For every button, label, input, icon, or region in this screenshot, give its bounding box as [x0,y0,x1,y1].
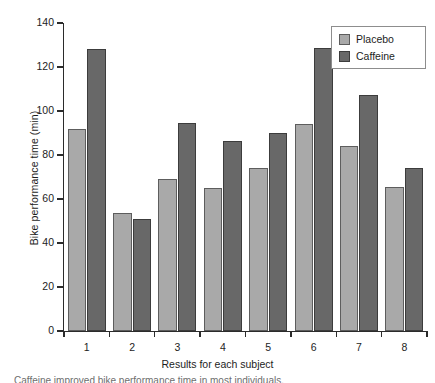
legend-swatch-caffeine [339,51,350,62]
bar-placebo-subject-7 [340,146,359,331]
bar-placebo-subject-3 [158,179,177,331]
legend-swatch-placebo [339,34,350,45]
x-tick-mark [426,331,427,337]
legend-label-caffeine: Caffeine [356,51,395,62]
x-tick-label-2: 2 [117,341,147,353]
y-axis-title: Bike performance time (min) [28,48,40,308]
bar-caffeine-subject-5 [269,133,288,331]
x-tick-mark [336,331,337,337]
y-tick-mark [57,66,63,67]
x-tick-mark [109,331,110,337]
y-tick-mark [57,286,63,287]
plot-area [64,23,427,331]
bar-placebo-subject-5 [249,168,268,331]
bar-chart-figure: Bike performance time (min) 020406080100… [0,0,435,383]
y-tick-label: 140 [14,17,54,27]
x-tick-label-3: 3 [162,341,192,353]
y-tick-mark [57,330,63,331]
x-axis-title: Results for each subject [0,358,435,370]
bar-placebo-subject-1 [68,129,87,331]
bar-placebo-subject-6 [295,124,314,331]
bar-caffeine-subject-3 [178,123,197,331]
y-tick-mark [57,154,63,155]
y-tick-label: 100 [14,105,54,115]
bar-placebo-subject-8 [385,187,404,331]
bar-caffeine-subject-2 [133,219,152,331]
x-tick-label-7: 7 [344,341,374,353]
legend-item-caffeine: Caffeine [339,49,419,63]
x-tick-label-4: 4 [208,341,238,353]
bar-caffeine-subject-6 [314,48,333,331]
chart-legend: Placebo Caffeine [331,26,426,69]
x-tick-mark [154,331,155,337]
x-tick-label-8: 8 [389,341,419,353]
bar-placebo-subject-2 [113,213,132,331]
y-tick-mark [57,22,63,23]
y-tick-mark [57,242,63,243]
x-tick-label-5: 5 [253,341,283,353]
figure-caption: Caffeine improved bike performance time … [14,375,434,383]
x-tick-mark [245,331,246,337]
x-tick-mark [199,331,200,337]
legend-label-placebo: Placebo [356,34,394,45]
y-tick-label: 20 [14,281,54,291]
legend-item-placebo: Placebo [339,32,419,46]
y-tick-label: 0 [14,325,54,335]
x-tick-mark [63,331,64,337]
bar-caffeine-subject-4 [223,141,242,331]
x-tick-label-6: 6 [299,341,329,353]
bar-caffeine-subject-8 [405,168,424,331]
y-tick-mark [57,110,63,111]
x-tick-mark [381,331,382,337]
bar-caffeine-subject-7 [359,95,378,332]
x-tick-mark [290,331,291,337]
bar-placebo-subject-4 [204,188,223,331]
x-tick-label-1: 1 [72,341,102,353]
y-tick-mark [57,198,63,199]
y-tick-label: 120 [14,61,54,71]
y-tick-label: 40 [14,237,54,247]
y-tick-label: 80 [14,149,54,159]
bar-caffeine-subject-1 [87,49,106,331]
y-tick-label: 60 [14,193,54,203]
